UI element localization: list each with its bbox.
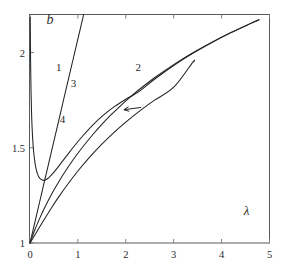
curve-label-2: 2 <box>136 61 142 73</box>
curve-label-4: 4 <box>60 113 66 125</box>
x-tick-label: 4 <box>219 249 225 260</box>
x-tick-label: 0 <box>27 249 32 260</box>
y-tick-label: 2 <box>20 48 25 59</box>
x-axis-title: λ <box>243 203 250 218</box>
curve-label-3: 3 <box>71 77 77 89</box>
x-tick-label: 1 <box>75 249 80 260</box>
y-tick-label: 1 <box>20 238 25 249</box>
curve-label-1: 1 <box>56 61 62 73</box>
x-tick-label: 3 <box>171 249 176 260</box>
x-tick-label: 2 <box>123 249 128 260</box>
chart-background <box>0 0 286 278</box>
figure-panel-b: 01234511.52 1234λb <box>0 0 286 278</box>
x-tick-label: 5 <box>267 249 272 260</box>
line-chart: 01234511.52 1234λb <box>0 0 286 278</box>
y-tick-label: 1.5 <box>12 143 25 154</box>
panel-label: b <box>47 12 54 27</box>
